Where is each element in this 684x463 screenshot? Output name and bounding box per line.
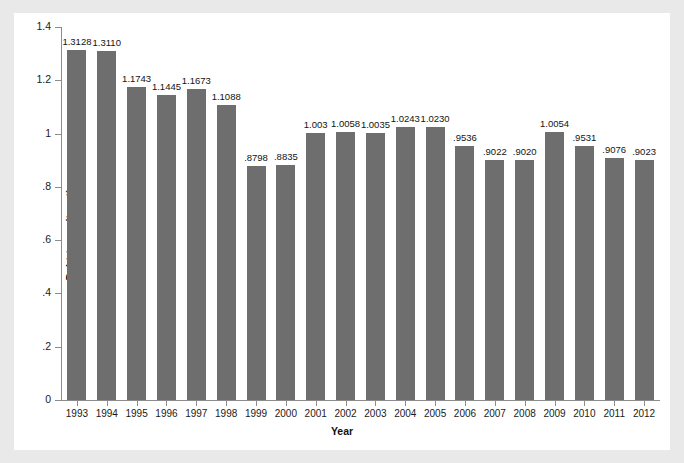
x-axis-tick [316, 401, 317, 406]
x-axis-tick [465, 401, 466, 406]
x-axis-tick [644, 401, 645, 406]
y-axis-tick: .8 [55, 187, 61, 188]
x-axis-tick-label: 2010 [573, 408, 595, 419]
bar [485, 160, 504, 400]
bar [247, 166, 266, 400]
bar-value-label: 1.3128 [62, 36, 91, 47]
x-axis-tick-label: 2012 [633, 408, 655, 419]
bar-value-label: 1.0243 [391, 113, 420, 124]
bar-value-label: .9076 [602, 144, 626, 155]
y-axis-tick: 1.4 [55, 27, 61, 28]
x-axis-tick-label: 2009 [543, 408, 565, 419]
bar [306, 133, 325, 400]
bar [605, 158, 624, 400]
bar [635, 160, 654, 400]
y-axis-tick-label: .8 [42, 180, 51, 192]
bar [187, 89, 206, 400]
x-axis-tick-label: 1999 [245, 408, 267, 419]
bar [455, 146, 474, 400]
x-axis-tick [77, 401, 78, 406]
bar [276, 165, 295, 400]
bar [127, 87, 146, 400]
plot-area: 1.31281.31101.17431.14451.16731.1088.879… [62, 27, 659, 400]
bar-value-label: 1.1088 [212, 91, 241, 102]
x-axis-tick-label: 1994 [96, 408, 118, 419]
x-axis-tick [495, 401, 496, 406]
bar-value-label: 1.0058 [331, 118, 360, 129]
x-axis-tick [166, 401, 167, 406]
x-axis-tick-label: 2005 [424, 408, 446, 419]
x-axis-tick-label: 2002 [334, 408, 356, 419]
x-axis-tick-label: 1997 [185, 408, 207, 419]
y-axis-tick-label: 0 [45, 393, 51, 405]
y-axis-tick: .2 [55, 347, 61, 348]
x-axis-tick-label: 1998 [215, 408, 237, 419]
x-axis-tick-label: 2011 [603, 408, 625, 419]
bar [426, 127, 445, 400]
bar [515, 160, 534, 400]
bar-value-label: 1.0230 [421, 113, 450, 124]
bar-value-label: .9536 [453, 132, 477, 143]
bar [366, 133, 385, 400]
x-axis-tick [525, 401, 526, 406]
bar-value-label: 1.3110 [93, 37, 121, 48]
x-axis-tick-label: 2007 [484, 408, 506, 419]
x-axis-tick [137, 401, 138, 406]
bar-value-label: 1.1445 [152, 81, 181, 92]
x-axis-tick [196, 401, 197, 406]
y-axis-tick-label: 1.2 [36, 73, 51, 85]
bar-value-label: .8835 [274, 151, 298, 162]
x-axis-tick-label: 2008 [514, 408, 536, 419]
x-axis-tick [584, 401, 585, 406]
chart-card: Debt-to-equity ratio 0.2.4.6.811.21.4 19… [14, 13, 670, 450]
x-axis-tick [286, 401, 287, 406]
x-axis-tick [107, 401, 108, 406]
top-caption-strip: Figure: Debt-to-equity ratio by year [0, 0, 684, 13]
x-axis-tick-label: 2006 [454, 408, 476, 419]
x-axis-tick [256, 401, 257, 406]
y-axis-tick-label: .2 [42, 340, 51, 352]
x-axis-title: Year [14, 425, 670, 437]
bar [157, 95, 176, 400]
x-axis-tick-label: 2001 [305, 408, 327, 419]
x-axis-tick [614, 401, 615, 406]
bar-value-label: 1.0054 [540, 118, 569, 129]
bar [67, 50, 86, 400]
x-axis-tick-label: 1996 [155, 408, 177, 419]
x-axis-tick [435, 401, 436, 406]
x-axis-tick-label: 1995 [126, 408, 148, 419]
y-axis-tick: .4 [55, 293, 61, 294]
bar-value-label: 1.1743 [122, 73, 151, 84]
bar-value-label: .9020 [513, 146, 537, 157]
x-axis-tick-label: 2003 [364, 408, 386, 419]
y-axis-tick-label: 1 [45, 127, 51, 139]
bar [545, 132, 564, 400]
x-axis-tick-label: 2000 [275, 408, 297, 419]
y-axis-tick: 1.2 [55, 80, 61, 81]
bar-value-label: 1.003 [304, 119, 328, 130]
bar-value-label: .8798 [244, 152, 268, 163]
y-axis-tick-label: .4 [42, 286, 51, 298]
bar [217, 105, 236, 400]
x-axis-tick [555, 401, 556, 406]
x-axis-tick [405, 401, 406, 406]
y-axis-tick: 0 [55, 400, 61, 401]
bar-value-label: .9531 [572, 132, 596, 143]
y-axis-tick-label: .6 [42, 233, 51, 245]
x-axis-tick-label: 1993 [66, 408, 88, 419]
x-axis-tick-label: 2004 [394, 408, 416, 419]
bar [575, 146, 594, 400]
bar-value-label: 1.0035 [361, 119, 390, 130]
x-axis-line [61, 400, 660, 401]
bar [336, 132, 355, 400]
y-axis-tick: .6 [55, 240, 61, 241]
y-axis-tick: 1 [55, 134, 61, 135]
bar-value-label: 1.1673 [182, 75, 211, 86]
bar [97, 51, 116, 400]
bar-value-label: .9022 [483, 146, 507, 157]
y-axis-tick-label: 1.4 [36, 20, 51, 32]
x-axis-tick [375, 401, 376, 406]
bar-value-label: .9023 [632, 146, 656, 157]
x-axis-tick [346, 401, 347, 406]
x-axis-tick [226, 401, 227, 406]
